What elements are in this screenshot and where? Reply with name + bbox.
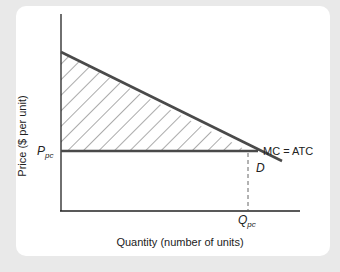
p-pc-tick-label: Ppc: [37, 144, 53, 160]
chart-plot: [0, 0, 340, 272]
y-axis-label: Price ($ per unit): [16, 76, 28, 196]
demand-label: D: [256, 161, 265, 175]
q-pc-tick-label: Qpc: [238, 213, 256, 229]
x-axis-label: Quantity (number of units): [60, 236, 300, 248]
mc-atc-label: MC = ATC: [263, 145, 313, 157]
